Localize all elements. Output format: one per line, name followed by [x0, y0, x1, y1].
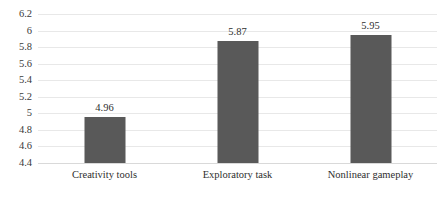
- bar-group: 5.95: [304, 14, 437, 163]
- x-axis-category-label: Nonlinear gameplay: [304, 170, 437, 181]
- y-axis-tick-label: 5.8: [2, 42, 32, 53]
- x-axis-category-label: Exploratory task: [171, 170, 304, 181]
- chart-title: [0, 0, 446, 8]
- bar-value-label: 5.87: [228, 27, 246, 38]
- y-axis-tick-label: 5.6: [2, 58, 32, 69]
- x-axis-category-label: Creativity tools: [38, 170, 171, 181]
- gridline: [38, 163, 437, 164]
- bar[interactable]: [350, 35, 391, 163]
- bar-chart: 4.965.875.95 6.265.85.65.45.254.84.64.4C…: [0, 0, 446, 197]
- y-axis-tick-label: 4.6: [2, 141, 32, 152]
- plot-area: 4.965.875.95: [38, 14, 437, 163]
- bar[interactable]: [217, 41, 258, 163]
- bar-value-label: 5.95: [361, 21, 379, 32]
- y-axis-tick-label: 5.4: [2, 75, 32, 86]
- bar-group: 5.87: [171, 14, 304, 163]
- y-axis-tick-label: 4.4: [2, 158, 32, 169]
- y-axis-tick-label: 4.8: [2, 125, 32, 136]
- y-axis-tick-label: 5.2: [2, 92, 32, 103]
- bar-value-label: 4.96: [95, 103, 113, 114]
- bar-group: 4.96: [38, 14, 171, 163]
- y-axis-tick-label: 6.2: [2, 9, 32, 20]
- y-axis-tick-label: 6: [2, 25, 32, 36]
- bar[interactable]: [84, 117, 125, 163]
- y-axis-tick-label: 5: [2, 108, 32, 119]
